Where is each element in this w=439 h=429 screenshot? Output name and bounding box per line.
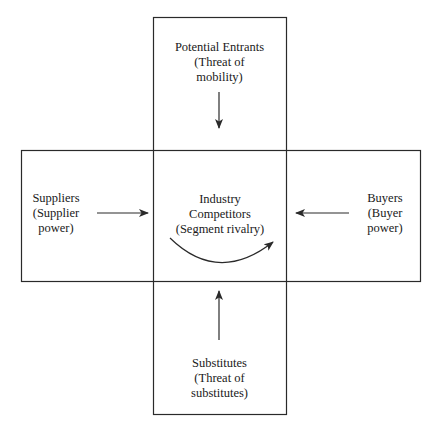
node-line: Competitors — [160, 207, 280, 222]
node-line: Industry — [160, 192, 280, 207]
node-industry-competitors: Industry Competitors (Segment rivalry) — [160, 192, 280, 237]
node-line: Potential Entrants — [153, 40, 286, 55]
node-potential-entrants: Potential Entrants (Threat of mobility) — [153, 40, 286, 85]
node-suppliers: Suppliers (Supplier power) — [21, 191, 91, 236]
node-substitutes: Substitutes (Threat of substitutes) — [153, 356, 286, 401]
node-line: (Buyer — [350, 206, 420, 221]
node-line: (Segment rivalry) — [160, 222, 280, 237]
node-line: power) — [350, 221, 420, 236]
node-line: (Threat of — [153, 371, 286, 386]
node-line: Substitutes — [153, 356, 286, 371]
node-line: Suppliers — [21, 191, 91, 206]
rivalry-curved-arrow — [170, 238, 273, 263]
node-line: Buyers — [350, 191, 420, 206]
node-buyers: Buyers (Buyer power) — [350, 191, 420, 236]
node-line: mobility) — [153, 70, 286, 85]
node-line: substitutes) — [153, 386, 286, 401]
node-line: power) — [21, 221, 91, 236]
node-line: (Supplier — [21, 206, 91, 221]
node-line: (Threat of — [153, 55, 286, 70]
